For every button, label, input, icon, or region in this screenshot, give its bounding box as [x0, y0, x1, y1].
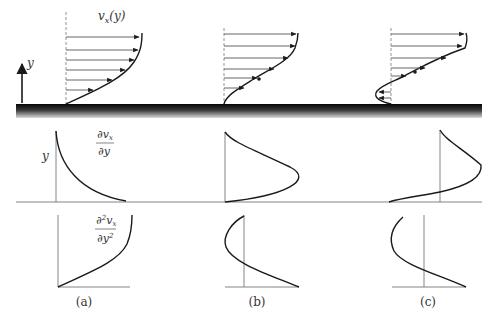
row-y-label: y — [41, 149, 49, 163]
boundary-layer-diagram: y vx(y) — [0, 0, 495, 323]
second-derivative-c — [391, 215, 466, 287]
caption-a: (a) — [76, 295, 93, 309]
first-derivative-b — [225, 132, 299, 202]
profile-b — [224, 28, 298, 104]
y-axis-arrow: y — [22, 56, 34, 103]
first-derivative-c — [389, 130, 481, 202]
profile-label: vx(y) — [98, 9, 126, 25]
second-derivative-label: ∂2vx ∂y2 — [95, 214, 116, 245]
caption-b: (b) — [248, 295, 265, 309]
profile-c — [376, 28, 467, 104]
svg-text:∂y2: ∂y2 — [97, 232, 114, 245]
first-derivative-a — [56, 131, 126, 202]
first-derivative-label: ∂vx ∂y — [96, 128, 114, 158]
svg-text:∂vx: ∂vx — [97, 128, 113, 142]
svg-text:∂y: ∂y — [98, 145, 111, 158]
caption-c: (c) — [420, 295, 436, 309]
profile-a: vx(y) — [66, 9, 142, 104]
second-derivative-b — [225, 215, 299, 287]
flat-plate — [16, 104, 482, 118]
y-axis-label: y — [26, 56, 34, 70]
second-derivative-a — [58, 215, 132, 287]
svg-text:∂2vx: ∂2vx — [96, 214, 116, 228]
